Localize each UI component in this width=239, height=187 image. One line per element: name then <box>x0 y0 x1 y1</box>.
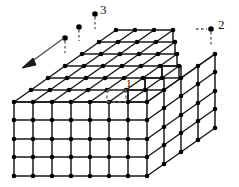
lattice-atoms <box>12 28 218 179</box>
direction-arrow <box>22 38 64 68</box>
label-1: 1 <box>126 78 132 89</box>
marker-dot-terrace <box>76 24 82 30</box>
marker-dot-2 <box>208 26 214 32</box>
label-2: 2 <box>218 18 225 31</box>
marker-dot-3 <box>92 11 98 17</box>
figure-canvas: 3 2 1 <box>0 0 239 187</box>
site-markers <box>62 11 214 53</box>
label-3: 3 <box>100 3 107 16</box>
lattice-diagram <box>0 0 239 187</box>
